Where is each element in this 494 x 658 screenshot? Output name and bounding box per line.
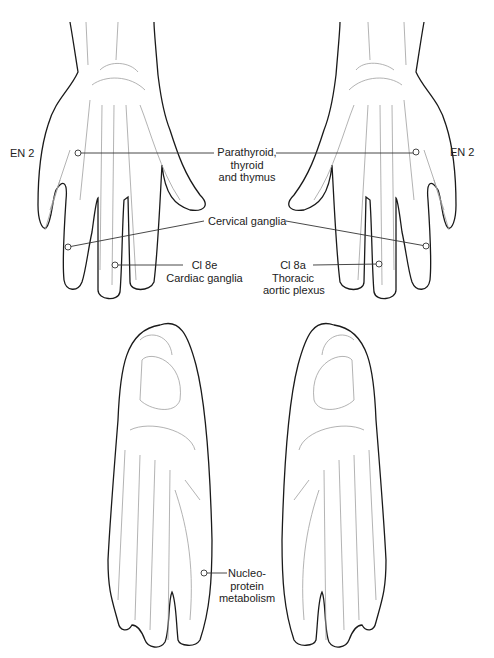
label-ci8e-line1: Cl 8e: [162, 259, 247, 272]
point-ci8e: [112, 262, 118, 268]
label-ci8a: Cl 8a Thoracic aortic plexus: [263, 259, 323, 297]
label-nucleo-line1: Nucleo-: [217, 567, 277, 580]
point-en2-left: [75, 150, 81, 156]
label-nucleo-line2: protein: [217, 580, 277, 593]
label-ci8a-line3: aortic plexus: [263, 284, 323, 297]
point-nucleo: [201, 570, 207, 576]
point-ci8a: [376, 261, 382, 267]
point-en2-right: [413, 149, 419, 155]
label-ci8a-line1: Cl 8a: [263, 259, 323, 272]
label-parathyroid: Parathyroid, thyroid and thymus: [213, 146, 281, 184]
label-en2-right: EN 2: [450, 146, 474, 159]
bone-lines: [45, 22, 449, 640]
label-parathyroid-line2: thyroid: [213, 159, 281, 172]
label-en2-left: EN 2: [10, 147, 34, 160]
point-cervical-left: [65, 244, 71, 250]
label-nucleoprotein: Nucleo- protein metabolism: [217, 567, 277, 605]
label-ci8e-line2: Cardiac ganglia: [162, 272, 247, 285]
label-cervical-ganglia: Cervical ganglia: [208, 215, 286, 228]
anatomy-drawing: [0, 0, 494, 658]
label-nucleo-line3: metabolism: [217, 592, 277, 605]
label-ci8e: Cl 8e Cardiac ganglia: [162, 259, 247, 284]
label-parathyroid-line1: Parathyroid,: [213, 146, 281, 159]
label-parathyroid-line3: and thymus: [213, 171, 281, 184]
point-cervical-right: [423, 243, 429, 249]
label-ci8a-line2: Thoracic: [263, 272, 323, 285]
